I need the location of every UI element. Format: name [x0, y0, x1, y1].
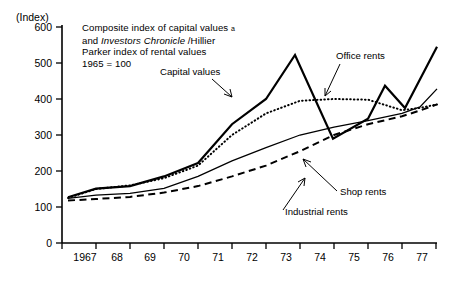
- y-axis-tick-labels: 600 500 400 300 200 100 0: [34, 21, 52, 249]
- y-tick-label-600: 600: [34, 21, 52, 33]
- y-tick-label-100: 100: [34, 201, 52, 213]
- series-line-office-rents: [68, 99, 437, 198]
- x-tick-label-1967: 1967: [73, 251, 97, 263]
- x-tick-label-73: 73: [280, 251, 292, 263]
- x-tick-label-74: 74: [314, 251, 326, 263]
- annotation-capital-values: Capital values: [160, 66, 232, 97]
- y-axis-ticks: [56, 27, 62, 243]
- chart-title: Composite index of capital values a and …: [82, 22, 235, 69]
- x-tick-label-68: 68: [111, 251, 123, 263]
- x-axis-tick-labels: 1967 68 69 70 71 72 73 74 75 76 77: [73, 251, 428, 263]
- y-tick-label-300: 300: [34, 129, 52, 141]
- x-tick-label-71: 71: [212, 251, 224, 263]
- x-tick-label-75: 75: [348, 251, 360, 263]
- x-tick-label-70: 70: [178, 251, 190, 263]
- chart-title-line-1: Composite index of capital values a: [82, 22, 235, 35]
- x-tick-label-76: 76: [382, 251, 394, 263]
- chart-title-line-2: and Investors Chronicle /Hillier: [82, 35, 235, 47]
- x-tick-label-69: 69: [144, 251, 156, 263]
- annotation-shop-rents: Shop rents: [303, 159, 387, 197]
- y-tick-label-0: 0: [46, 237, 52, 249]
- y-tick-label-400: 400: [34, 93, 52, 105]
- x-axis-ticks: [62, 243, 436, 249]
- annotation-label-office-rents: Office rents: [336, 50, 385, 61]
- annotation-industrial-rents: Industrial rents: [283, 178, 348, 217]
- chart-title-line-4: 1965 = 100: [82, 58, 235, 70]
- annotation-label-industrial-rents: Industrial rents: [285, 206, 348, 217]
- chart-title-line-3: Parker index of rental values: [82, 46, 235, 58]
- x-tick-label-72: 72: [246, 251, 258, 263]
- x-tick-label-77: 77: [416, 251, 428, 263]
- title-italic-publication: Investors Chronicle: [101, 35, 185, 46]
- y-tick-label-200: 200: [34, 165, 52, 177]
- y-tick-label-500: 500: [34, 57, 52, 69]
- series-line-shop-rents: [68, 89, 437, 198]
- annotation-label-shop-rents: Shop rents: [340, 186, 387, 197]
- title-superscript: a: [231, 25, 235, 32]
- chart-figure: Composite index of capital values a and …: [0, 0, 463, 281]
- annotation-office-rents: Office rents: [325, 50, 385, 96]
